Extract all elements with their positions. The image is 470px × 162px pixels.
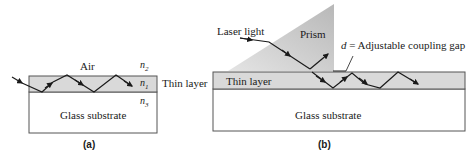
air-label: Air [80, 60, 95, 72]
glass-substrate-label-a: Glass substrate [60, 109, 126, 121]
waveguide-diagram: Air n2 n1 n3 Thin layer Glass substrate … [0, 0, 470, 162]
glass-substrate-label-b: Glass substrate [295, 109, 361, 121]
coupling-gap-label: d = Adjustable coupling gap [341, 39, 466, 51]
thin-layer-label-b: Thin layer [226, 75, 272, 87]
thin-layer-label-a: Thin layer [162, 77, 208, 89]
caption-a: (a) [83, 139, 95, 150]
prism-label: Prism [300, 28, 326, 40]
coupling-gap-leader [346, 56, 353, 71]
laser-light-label: Laser light [217, 25, 264, 37]
n2-label: n2 [140, 59, 149, 73]
panel-b: Laser light Prism d = Adjustable couplin… [213, 4, 466, 150]
panel-a: Air n2 n1 n3 Thin layer Glass substrate … [12, 59, 208, 150]
thin-layer-a [29, 76, 157, 92]
caption-b: (b) [318, 139, 331, 150]
